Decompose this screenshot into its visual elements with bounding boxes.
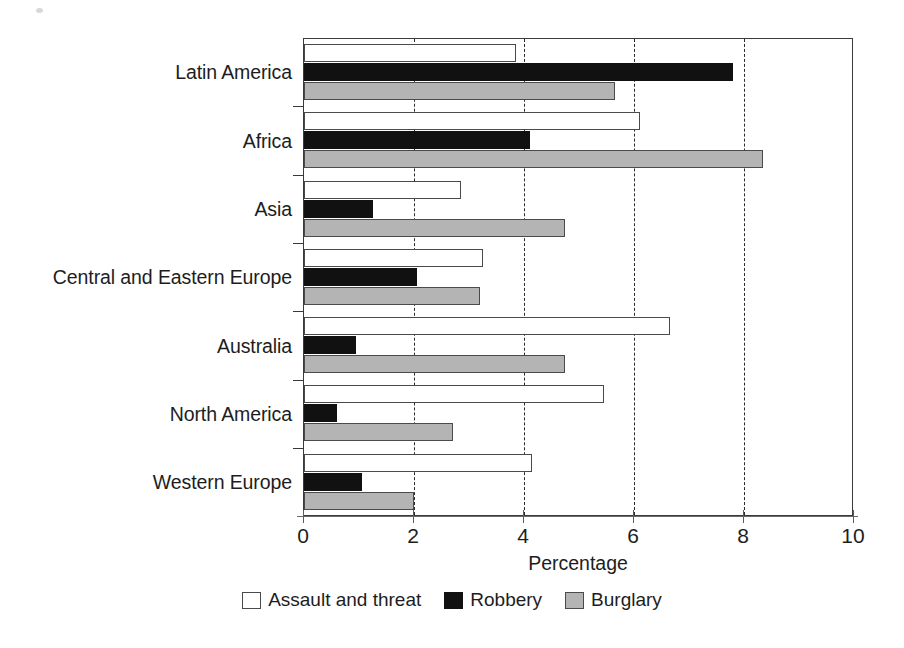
x-axis-tick-label-6: 6	[603, 524, 663, 548]
legend-item-assault-and-threat: Assault and threat	[242, 589, 421, 611]
bar-north-america-robbery	[304, 404, 337, 422]
bar-africa-robbery	[304, 131, 530, 149]
y-axis-label-north-america: North America	[0, 403, 292, 426]
y-axis-label-latin-america: Latin America	[0, 61, 292, 84]
black-square-swatch-icon	[444, 592, 463, 609]
x-axis-tick-0	[303, 510, 304, 523]
x-axis-title: Percentage	[303, 552, 853, 575]
legend: Assault and threat Robbery Burglary	[0, 589, 904, 611]
white-square-swatch-icon	[242, 592, 261, 609]
bar-africa-burglary	[304, 150, 763, 168]
x-axis-tick-8	[743, 510, 744, 523]
legend-label-burglary: Burglary	[591, 589, 662, 611]
bar-latin-america-robbery	[304, 63, 733, 81]
bar-north-america-assault	[304, 385, 604, 403]
legend-item-burglary: Burglary	[565, 589, 662, 611]
bar-asia-robbery	[304, 200, 373, 218]
bar-latin-america-assault	[304, 44, 516, 62]
bar-australia-robbery	[304, 336, 356, 354]
bar-group-latin-america	[304, 39, 852, 107]
bar-chart-figure: Latin America Africa Asia Central and Ea…	[0, 0, 904, 648]
x-axis-tick-label-2: 2	[383, 524, 443, 548]
bar-group-western-europe	[304, 449, 852, 517]
bar-western-europe-assault	[304, 454, 532, 472]
bar-australia-burglary	[304, 355, 565, 373]
bar-australia-assault	[304, 317, 670, 335]
y-axis-tick-5	[293, 380, 304, 381]
bar-western-europe-robbery	[304, 473, 362, 491]
bar-north-america-burglary	[304, 423, 453, 441]
bar-cee-robbery	[304, 268, 417, 286]
bar-western-europe-burglary	[304, 492, 414, 510]
x-axis-tick-10	[853, 510, 854, 523]
plot-area	[303, 38, 853, 516]
x-axis-tick-label-10: 10	[823, 524, 883, 548]
bar-group-australia	[304, 312, 852, 380]
legend-label-robbery: Robbery	[470, 589, 542, 611]
bar-africa-assault	[304, 112, 640, 130]
x-axis-tick-label-4: 4	[493, 524, 553, 548]
y-axis-tick-2	[293, 175, 304, 176]
bar-group-north-america	[304, 380, 852, 448]
scan-artifact-speck	[36, 8, 43, 13]
x-axis-tick-label-8: 8	[713, 524, 773, 548]
x-axis-tick-label-0: 0	[273, 524, 333, 548]
y-axis-tick-1	[293, 106, 304, 107]
bar-cee-burglary	[304, 287, 480, 305]
bar-group-africa	[304, 107, 852, 175]
x-axis-tick-6	[633, 510, 634, 523]
x-axis-tick-4	[523, 510, 524, 523]
y-axis-label-central-and-eastern-europe: Central and Eastern Europe	[0, 266, 292, 289]
x-axis-line	[297, 516, 858, 517]
y-axis-label-africa: Africa	[0, 130, 292, 153]
legend-label-assault-and-threat: Assault and threat	[268, 589, 421, 611]
bar-cee-assault	[304, 249, 483, 267]
bar-group-asia	[304, 176, 852, 244]
bar-asia-burglary	[304, 219, 565, 237]
caption-sliver	[0, 640, 904, 648]
gray-square-swatch-icon	[565, 592, 584, 609]
bar-group-central-and-eastern-europe	[304, 244, 852, 312]
x-axis-tick-2	[413, 510, 414, 523]
y-axis-label-australia: Australia	[0, 335, 292, 358]
y-axis-tick-4	[293, 311, 304, 312]
bar-latin-america-burglary	[304, 82, 615, 100]
y-axis-label-asia: Asia	[0, 198, 292, 221]
legend-item-robbery: Robbery	[444, 589, 542, 611]
y-axis-label-western-europe: Western Europe	[0, 471, 292, 494]
y-axis-tick-6	[293, 448, 304, 449]
bar-asia-assault	[304, 181, 461, 199]
y-axis-tick-3	[293, 243, 304, 244]
